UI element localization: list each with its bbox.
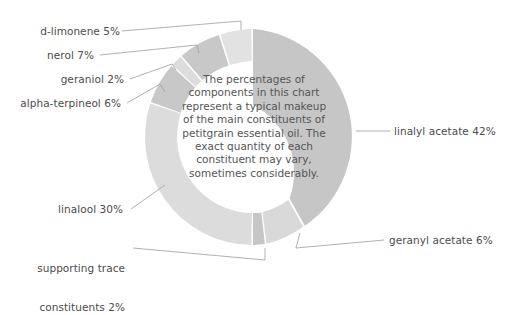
slice-label-supporting-trace-line2: constituents 2% — [8, 301, 125, 314]
slice-label-linalyl-acetate[interactable]: linalyl acetate 42% — [394, 125, 496, 138]
slice-supporting-trace[interactable] — [253, 212, 265, 245]
slice-label-linalool[interactable]: linalool 30% — [8, 203, 123, 216]
slice-label-geranyl-acetate[interactable]: geranyl acetate 6% — [389, 234, 493, 247]
leader-line-geranyl-acetate — [296, 233, 384, 248]
slice-label-supporting-trace-line1: supporting trace — [8, 262, 125, 275]
leader-line-d-limonene — [122, 21, 241, 31]
chart-center-note: The percentages of components in this ch… — [176, 73, 332, 180]
slice-label-geraniol[interactable]: geraniol 2% — [8, 73, 124, 86]
slice-label-supporting-trace[interactable]: supporting trace constituents 2% — [8, 236, 125, 315]
slice-label-alpha-terpineol[interactable]: alpha-terpineol 6% — [6, 97, 121, 110]
leader-line-supporting-trace — [133, 248, 265, 260]
slice-label-d-limonene[interactable]: d-limonene 5% — [8, 25, 120, 38]
leader-line-linalool — [131, 185, 165, 209]
slice-label-nerol[interactable]: nerol 7% — [8, 49, 94, 62]
leader-line-nerol — [100, 45, 199, 55]
